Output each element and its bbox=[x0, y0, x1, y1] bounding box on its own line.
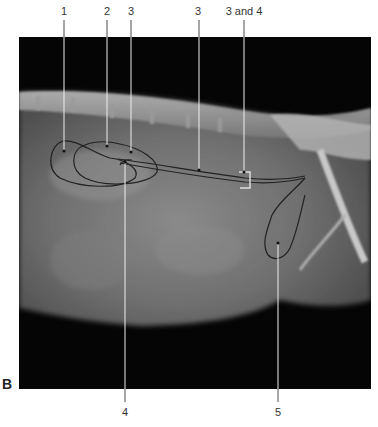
label-3b: 3 bbox=[195, 5, 201, 17]
label-4: 4 bbox=[122, 406, 128, 418]
label-5: 5 bbox=[275, 406, 281, 418]
label-1: 1 bbox=[61, 5, 67, 17]
radiograph-figure bbox=[0, 0, 378, 427]
label-3-and-4: 3 and 4 bbox=[226, 5, 263, 17]
label-3a: 3 bbox=[128, 5, 134, 17]
panel-label: B bbox=[2, 376, 12, 392]
label-2: 2 bbox=[104, 5, 110, 17]
